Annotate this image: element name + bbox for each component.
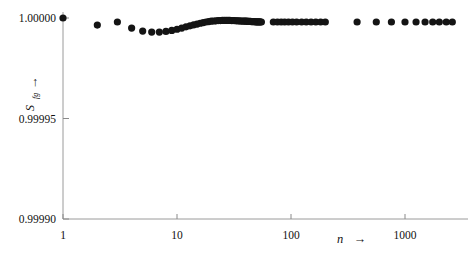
data-point	[258, 18, 265, 25]
plot-canvas: 1101001000 0.999900.999951.00000 n → ↑ S…	[0, 0, 472, 258]
data-point	[388, 18, 395, 25]
x-tick-label: 1000	[394, 229, 417, 241]
x-tick-label: 10	[171, 229, 183, 241]
data-point	[128, 24, 135, 31]
data-point-series	[59, 14, 456, 35]
y-axis-title-symbol: S	[23, 104, 37, 111]
x-tick-label: 100	[282, 229, 300, 241]
data-point	[114, 18, 121, 25]
data-point	[449, 18, 456, 25]
x-axis-title-arrow: →	[354, 232, 367, 246]
y-axis-ticks	[63, 18, 69, 219]
data-point	[401, 18, 408, 25]
data-point	[94, 21, 101, 28]
x-axis-ticks	[63, 214, 405, 219]
y-tick-label: 1.00000	[19, 12, 57, 24]
data-point	[322, 18, 329, 25]
y-axis-title-subscript: fg	[31, 93, 40, 99]
y-axis-title: ↑ S fg	[23, 75, 40, 111]
data-point	[412, 18, 419, 25]
data-point	[354, 18, 361, 25]
data-point	[421, 18, 428, 25]
data-point	[156, 28, 163, 35]
y-axis-title-arrow: ↑	[32, 75, 38, 89]
y-tick-label: 0.99990	[19, 213, 57, 225]
data-point	[59, 14, 66, 21]
data-point	[148, 28, 155, 35]
data-point	[139, 27, 146, 34]
axes-group	[63, 12, 468, 219]
y-axis-tick-labels: 0.999900.999951.00000	[19, 12, 57, 225]
scatter-plot-figure: 1101001000 0.999900.999951.00000 n → ↑ S…	[0, 0, 472, 258]
data-point	[436, 18, 443, 25]
x-axis-title-symbol: n	[337, 232, 343, 246]
x-tick-label: 1	[60, 229, 66, 241]
x-axis-title: n →	[337, 232, 366, 246]
data-point	[429, 18, 436, 25]
data-point	[373, 18, 380, 25]
y-tick-label: 0.99995	[19, 113, 57, 125]
